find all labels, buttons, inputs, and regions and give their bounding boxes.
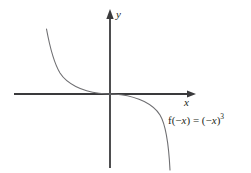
y-axis-label: y [116,9,121,20]
x-axis-label: x [184,97,189,108]
curve-lower-right-branch [110,94,170,170]
equation-close-paren: ) [186,114,190,126]
equation-exponent: 3 [220,112,224,121]
curve-upper-left-branch [47,29,111,94]
y-axis-arrowhead [106,9,113,19]
function-equation-annotation: f(−x) = (−x)3 [168,113,224,126]
function-graph-figure: y x f(−x) = (−x)3 [0,0,251,173]
plot-canvas [0,0,251,173]
equation-equals-sign: = [193,114,199,126]
